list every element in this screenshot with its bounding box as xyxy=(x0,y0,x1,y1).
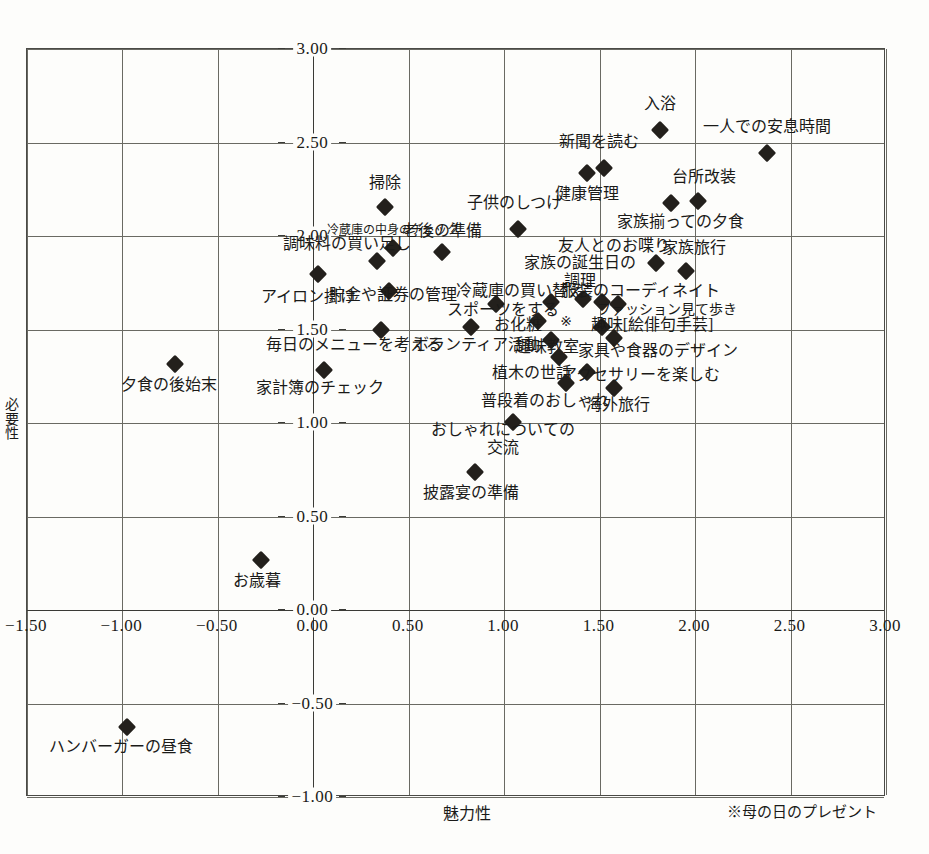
scatter-chart: 必要性 −1.00−0.500.000.501.001.502.002.503.… xyxy=(0,0,929,854)
y-tick-mark xyxy=(339,609,346,610)
y-tick-mark xyxy=(278,796,285,797)
x-tick-label: 2.50 xyxy=(774,617,806,634)
y-tick-mark xyxy=(278,516,285,517)
data-point-label: 家族揃っての夕食 xyxy=(617,213,744,231)
y-tick-mark xyxy=(339,703,346,704)
y-tick-label: 3.00 xyxy=(293,40,331,57)
data-point-label: 趣味[絵俳句手芸] xyxy=(591,316,714,334)
data-point-label: 夕食の後始末 xyxy=(121,376,217,394)
data-point-label: 掃除 xyxy=(369,174,401,192)
y-tick-label: 1.50 xyxy=(293,320,331,337)
data-point-label: 子供のしつけ xyxy=(467,194,562,212)
x-axis-label: 魅力性 xyxy=(443,800,491,824)
x-tick-label: −0.50 xyxy=(196,617,238,634)
x-tick-label: −1.50 xyxy=(5,617,47,634)
x-tick-label: 3.00 xyxy=(869,617,901,634)
data-point-label: 調味料の買い足し xyxy=(283,235,411,253)
y-tick-mark xyxy=(278,609,285,610)
x-tick-label: 0.00 xyxy=(296,617,328,634)
x-tick-label: 0.50 xyxy=(392,617,424,634)
y-tick-label: 2.50 xyxy=(293,133,331,150)
data-point-label: ハンバーガーの昼食 xyxy=(49,738,193,756)
y-tick-mark xyxy=(339,48,346,49)
x-tick-label: 1.50 xyxy=(583,617,615,634)
y-tick-mark xyxy=(339,796,346,797)
data-point-label: 一人での安息時間 xyxy=(703,118,831,136)
y-tick-mark xyxy=(339,516,346,517)
y-tick-mark xyxy=(278,142,285,143)
data-point-label: 友人とのお喋り xyxy=(558,237,670,255)
data-point-label: アクセサリーを楽しむ xyxy=(561,366,720,384)
data-point-marker: ※ xyxy=(560,314,572,328)
y-tick-label: −1.00 xyxy=(288,788,336,805)
data-point-label: 服装のコーディネイト xyxy=(561,282,720,300)
data-point-label: 老後の準備 xyxy=(402,222,482,240)
y-tick-label: 0.50 xyxy=(293,507,331,524)
x-tick-label: 1.00 xyxy=(487,617,519,634)
data-point-label: おしゃれについての交流 xyxy=(431,421,575,457)
data-point-label: お化粧 xyxy=(494,316,542,334)
x-tick-label: −1.00 xyxy=(101,617,143,634)
data-point-label: 家族旅行 xyxy=(662,239,726,257)
data-point-label: お歳暮 xyxy=(233,572,281,590)
y-tick-mark xyxy=(339,142,346,143)
gridline-vertical xyxy=(27,49,28,795)
gridline-horizontal xyxy=(27,49,884,50)
gridline-vertical xyxy=(218,49,219,795)
gridline-horizontal xyxy=(27,330,884,331)
x-axis-line xyxy=(27,610,884,611)
data-point-label: 海外旅行 xyxy=(586,396,650,414)
data-point-label: 入浴 xyxy=(644,95,676,113)
gridline-vertical xyxy=(695,49,696,795)
gridline-vertical xyxy=(409,49,410,795)
y-tick-mark xyxy=(278,703,285,704)
y-tick-label: 1.00 xyxy=(293,414,331,431)
chart-footnote: ※母の日のプレゼント xyxy=(727,800,877,821)
data-point-label: 家計簿のチェック xyxy=(256,379,384,397)
gridline-vertical xyxy=(791,49,792,795)
y-tick-mark xyxy=(278,48,285,49)
gridline-horizontal xyxy=(27,143,884,144)
y-tick-mark xyxy=(339,422,346,423)
data-point-label: 家具や食器のデザイン xyxy=(578,342,738,360)
y-tick-mark xyxy=(339,329,346,330)
data-point-label: 健康管理 xyxy=(555,185,619,203)
gridline-horizontal xyxy=(27,704,884,705)
gridline-horizontal xyxy=(27,797,884,798)
data-point-label: 台所改装 xyxy=(672,168,736,186)
data-point-label: 趣味教室 xyxy=(515,338,579,356)
y-tick-label: −0.50 xyxy=(288,694,336,711)
data-point-label: 貯金や証券の管理 xyxy=(329,286,457,304)
gridline-vertical xyxy=(886,49,887,795)
data-point-label: 新聞を読む xyxy=(559,133,639,151)
y-tick-mark xyxy=(278,422,285,423)
y-axis-label: 必要性 xyxy=(2,398,22,442)
data-point-label: 披露宴の準備 xyxy=(423,484,519,502)
x-tick-label: 2.00 xyxy=(678,617,710,634)
gridline-horizontal xyxy=(27,517,884,518)
y-tick-label: 0.00 xyxy=(293,601,331,618)
y-tick-mark xyxy=(278,329,285,330)
gridline-vertical xyxy=(122,49,123,795)
